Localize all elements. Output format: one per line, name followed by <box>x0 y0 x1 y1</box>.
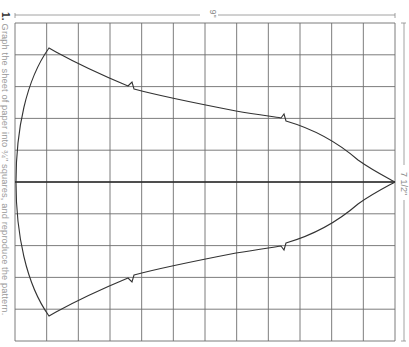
instruction-body: Graph the sheet of paper into ¾" squares… <box>0 24 10 316</box>
pattern-outline-bottom <box>16 182 395 316</box>
width-label: 9" <box>208 8 217 18</box>
height-label: 7 1/2" <box>399 170 408 197</box>
instruction-text: 1.Graph the sheet of paper into ¾" squar… <box>0 12 11 315</box>
width-dimension-line <box>15 13 395 18</box>
pattern-grid-diagram <box>0 0 409 347</box>
pattern-outline-top <box>16 48 395 182</box>
step-number: 1. <box>0 12 11 21</box>
